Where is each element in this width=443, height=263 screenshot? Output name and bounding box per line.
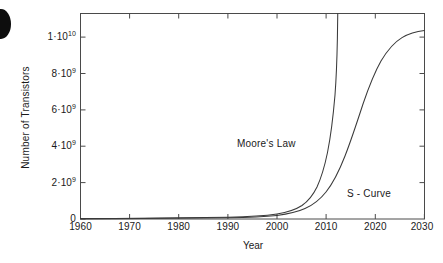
- x-tick-label-2010: 2010: [304, 222, 348, 232]
- y-tick-exponent: 10: [68, 30, 76, 37]
- annotation-s-curve: S - Curve: [347, 188, 391, 199]
- x-tick-label-1990: 1990: [206, 222, 250, 232]
- x-tick-label-2030: 2030: [400, 222, 443, 232]
- x-axis-title: Year: [243, 240, 263, 251]
- x-tick-label-1970: 1970: [108, 222, 152, 232]
- y-tick-label-2000000000: 2·109: [52, 178, 76, 189]
- y-tick-label-6000000000: 6·109: [52, 105, 76, 116]
- y-tick-exponent: 9: [72, 139, 76, 146]
- chart-figure: 1·1010 8·109 6·109 4·109 2·109 0 1960 19…: [0, 0, 443, 263]
- annotation-moores-law: Moore's Law: [237, 138, 296, 149]
- y-tick-label-8000000000: 8·109: [52, 69, 76, 80]
- x-tick-label-1980: 1980: [157, 222, 201, 232]
- x-tick-label-2000: 2000: [255, 222, 299, 232]
- y-tick-exponent: 9: [72, 67, 76, 74]
- y-tick-label-4000000000: 4·109: [52, 141, 76, 152]
- y-tick-exponent: 9: [72, 103, 76, 110]
- x-tick-label-2020: 2020: [353, 222, 397, 232]
- series-line-moores-law: [81, 14, 338, 219]
- y-axis-title: Number of Transistors: [20, 38, 31, 198]
- x-tick-label-1960: 1960: [59, 222, 103, 232]
- y-tick-label-10000000000: 1·1010: [48, 32, 76, 43]
- y-tick-exponent: 9: [72, 176, 76, 183]
